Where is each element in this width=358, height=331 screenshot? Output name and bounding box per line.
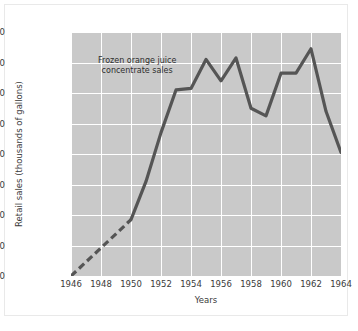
y-tick-label: 20,000: [0, 210, 5, 220]
x-tick-label: 1950: [120, 279, 142, 289]
dashed-line-segment: [71, 220, 131, 276]
y-tick-label: 30,000: [0, 180, 5, 190]
y-axis-label: Retail sales (thousands of gallons): [14, 81, 24, 227]
x-tick-label: 1954: [180, 279, 202, 289]
x-axis-label: Years: [195, 295, 217, 305]
y-tick-label: 60,000: [0, 88, 5, 98]
x-tick-label: 1952: [150, 279, 172, 289]
y-tick-label: 10,000: [0, 241, 5, 251]
x-tick-label: 1956: [210, 279, 232, 289]
y-tick-label: 0: [0, 271, 5, 281]
chart-figure: Retail sales (thousands of gallons) Year…: [0, 0, 358, 331]
y-tick-label: 80,000: [0, 27, 5, 37]
x-tick-label: 1948: [90, 279, 112, 289]
x-tick-label: 1964: [330, 279, 352, 289]
x-tick-label: 1960: [270, 279, 292, 289]
y-tick-label: 70,000: [0, 58, 5, 68]
x-tick-label: 1962: [300, 279, 322, 289]
y-tick-label: 40,000: [0, 149, 5, 159]
x-tick-label: 1946: [60, 279, 82, 289]
chart-annotation: Frozen orange juice concentrate sales: [98, 56, 176, 76]
x-tick-label: 1958: [240, 279, 262, 289]
y-tick-label: 50,000: [0, 119, 5, 129]
chart-frame: Retail sales (thousands of gallons) Year…: [4, 4, 348, 316]
